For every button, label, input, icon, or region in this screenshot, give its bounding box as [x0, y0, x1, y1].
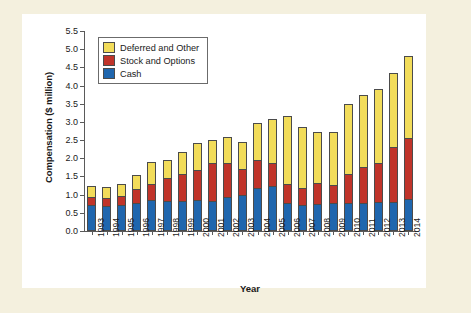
bar-segment-stock-and-options[interactable] [87, 197, 96, 205]
legend-swatch-icon [103, 55, 115, 66]
x-tick-label: 2000 [201, 218, 211, 237]
bar-segment-deferred-and-other[interactable] [389, 73, 398, 148]
bar-segment-cash[interactable] [87, 205, 96, 231]
bar-segment-stock-and-options[interactable] [268, 163, 277, 186]
bar-segment-deferred-and-other[interactable] [102, 187, 111, 198]
x-tick-label: 2006 [292, 218, 302, 237]
bar-segment-deferred-and-other[interactable] [344, 104, 353, 175]
legend-swatch-icon [103, 42, 115, 53]
y-tick-mark [80, 176, 84, 177]
x-tick-mark [107, 231, 108, 235]
bar-segment-deferred-and-other[interactable] [147, 162, 156, 184]
bar-segment-deferred-and-other[interactable] [329, 132, 338, 185]
bar-segment-deferred-and-other[interactable] [193, 143, 202, 170]
bar-segment-stock-and-options[interactable] [147, 184, 156, 200]
y-tick-mark [80, 140, 84, 141]
y-tick-label: 4.0 [38, 81, 84, 91]
bar-segment-deferred-and-other[interactable] [313, 132, 322, 184]
bar-2007[interactable] [298, 127, 307, 231]
legend-item-label: Cash [120, 69, 141, 79]
x-axis-title: Year [84, 283, 416, 294]
bar-segment-stock-and-options[interactable] [298, 188, 307, 204]
bar-segment-stock-and-options[interactable] [329, 185, 338, 204]
y-tick-mark [80, 158, 84, 159]
x-tick-label: 2014 [412, 218, 422, 237]
bar-2009[interactable] [329, 132, 338, 231]
x-tick-label: 2007 [307, 218, 317, 237]
bar-segment-stock-and-options[interactable] [132, 189, 141, 203]
bar-segment-stock-and-options[interactable] [359, 167, 368, 202]
bar-segment-stock-and-options[interactable] [374, 163, 383, 202]
x-tick-label: 1999 [186, 218, 196, 237]
y-tick-label: 5.0 [38, 44, 84, 54]
bar-2011[interactable] [359, 95, 368, 231]
bar-segment-deferred-and-other[interactable] [359, 95, 368, 168]
chart-card: Compensation ($ million) 0.00.51.01.52.0… [22, 14, 426, 288]
bar-segment-deferred-and-other[interactable] [298, 127, 307, 189]
x-tick-mark [197, 231, 198, 235]
bar-segment-stock-and-options[interactable] [193, 170, 202, 199]
y-tick-mark [80, 31, 84, 32]
bar-segment-deferred-and-other[interactable] [253, 123, 262, 160]
bar-segment-stock-and-options[interactable] [117, 196, 126, 205]
bar-2006[interactable] [283, 116, 292, 231]
bar-segment-stock-and-options[interactable] [163, 178, 172, 201]
bar-segment-deferred-and-other[interactable] [283, 116, 292, 184]
y-tick-label: 2.5 [38, 135, 84, 145]
x-tick-mark [348, 231, 349, 235]
bar-segment-deferred-and-other[interactable] [87, 186, 96, 197]
x-tick-mark [212, 231, 213, 235]
y-tick-label: 1.5 [38, 171, 84, 181]
legend-item-cash[interactable]: Cash [103, 67, 199, 80]
x-tick-label: 2010 [352, 218, 362, 237]
y-tick-mark [80, 104, 84, 105]
bar-segment-stock-and-options[interactable] [102, 198, 111, 206]
bar-segment-deferred-and-other[interactable] [268, 119, 277, 163]
bar-segment-stock-and-options[interactable] [253, 160, 262, 188]
bar-segment-deferred-and-other[interactable] [238, 142, 247, 169]
bar-segment-deferred-and-other[interactable] [404, 56, 413, 138]
bar-2014[interactable] [404, 56, 413, 231]
bar-segment-deferred-and-other[interactable] [178, 152, 187, 173]
bar-2008[interactable] [313, 132, 322, 231]
legend-swatch-icon [103, 68, 115, 79]
x-tick-mark [152, 231, 153, 235]
x-tick-label: 2001 [216, 218, 226, 237]
bar-segment-stock-and-options[interactable] [283, 184, 292, 202]
bar-segment-deferred-and-other[interactable] [223, 137, 232, 162]
x-tick-mark [92, 231, 93, 235]
legend-item-label: Deferred and Other [120, 43, 199, 53]
bar-segment-stock-and-options[interactable] [389, 147, 398, 202]
y-tick-mark [80, 213, 84, 214]
bar-segment-stock-and-options[interactable] [404, 138, 413, 200]
bar-2004[interactable] [253, 123, 262, 231]
x-tick-mark [273, 231, 274, 235]
y-tick-mark [80, 231, 84, 232]
bar-segment-deferred-and-other[interactable] [132, 175, 141, 189]
x-tick-mark [137, 231, 138, 235]
legend-item-deferred-and-other[interactable]: Deferred and Other [103, 41, 199, 54]
bar-2013[interactable] [389, 73, 398, 231]
bar-2010[interactable] [344, 104, 353, 231]
bar-segment-stock-and-options[interactable] [238, 169, 247, 195]
bar-segment-stock-and-options[interactable] [223, 163, 232, 198]
bar-segment-stock-and-options[interactable] [208, 163, 217, 201]
bar-segment-stock-and-options[interactable] [344, 174, 353, 203]
bar-1993[interactable] [87, 186, 96, 231]
y-tick-label: 4.5 [38, 62, 84, 72]
x-tick-label: 2003 [246, 218, 256, 237]
y-tick-label: 0.0 [38, 226, 84, 236]
bar-segment-stock-and-options[interactable] [313, 183, 322, 203]
bar-segment-deferred-and-other[interactable] [163, 160, 172, 178]
bar-segment-deferred-and-other[interactable] [374, 89, 383, 163]
legend-item-label: Stock and Options [120, 56, 195, 66]
y-tick-mark [80, 122, 84, 123]
bar-2005[interactable] [268, 119, 277, 231]
y-tick-label: 1.0 [38, 190, 84, 200]
legend-item-stock-and-options[interactable]: Stock and Options [103, 54, 199, 67]
bar-segment-deferred-and-other[interactable] [117, 184, 126, 196]
figure-root: Compensation ($ million) 0.00.51.01.52.0… [0, 0, 471, 313]
bar-segment-stock-and-options[interactable] [178, 174, 187, 202]
bar-2012[interactable] [374, 89, 383, 231]
bar-segment-deferred-and-other[interactable] [208, 140, 217, 163]
